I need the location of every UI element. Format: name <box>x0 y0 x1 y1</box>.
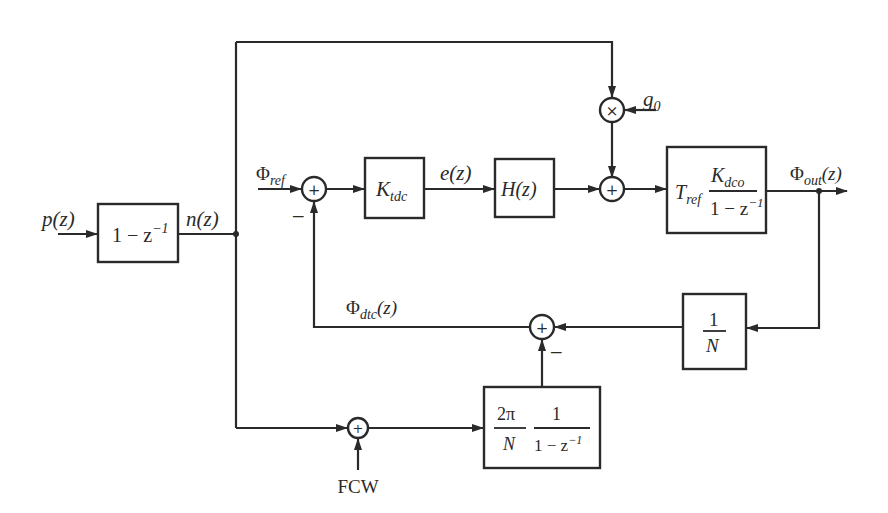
sum-junction-fcw: + <box>348 418 368 438</box>
svg-text:+: + <box>353 421 364 436</box>
label-phi-ref: Φref <box>256 163 287 188</box>
svg-text:1: 1 <box>552 404 561 424</box>
block-hz: H(z) <box>495 159 554 217</box>
sum-junction-dtc: + − <box>530 315 563 362</box>
sum-junction-dco-in: + <box>600 177 624 201</box>
label-e: e(z) <box>440 161 471 185</box>
label-fcw: FCW <box>337 476 378 497</box>
svg-text:×: × <box>606 102 619 120</box>
svg-text:N: N <box>705 335 720 356</box>
svg-text:+: + <box>606 181 619 199</box>
wire-n-to-mult <box>236 42 612 97</box>
block-divide-n: 1 N <box>683 294 746 369</box>
svg-text:1: 1 <box>709 309 719 330</box>
block-integrator: 2π N 1 1 − z−1 <box>484 387 600 468</box>
svg-text:−: − <box>291 206 305 226</box>
block-differentiator: 1 − z−1 <box>98 204 178 262</box>
block-ktdc: Ktdc <box>365 158 424 218</box>
svg-text:−: − <box>549 342 563 362</box>
block-diagram-canvas: 1 − z−1 Ktdc H(z) Tref Kdco 1 − z−1 1 N … <box>0 0 888 513</box>
label-phi-dtc: Φdtc(z) <box>346 297 397 322</box>
multiplier-g0: × <box>600 98 624 122</box>
block-dco: Tref Kdco 1 − z−1 <box>667 147 766 233</box>
svg-text:+: + <box>308 181 321 199</box>
junction-dot-out <box>816 188 822 194</box>
label-p: p(z) <box>40 207 75 231</box>
label-g0: g0 <box>643 87 661 114</box>
svg-text:N: N <box>502 434 516 454</box>
sum-junction-ref: + − <box>291 177 326 226</box>
svg-text:2π: 2π <box>497 404 515 424</box>
junction-dot-n <box>233 231 239 237</box>
svg-text:H(z): H(z) <box>500 178 537 201</box>
svg-text:+: + <box>536 319 549 337</box>
label-n: n(z) <box>186 207 219 231</box>
label-phi-out: Φout(z) <box>790 163 842 188</box>
